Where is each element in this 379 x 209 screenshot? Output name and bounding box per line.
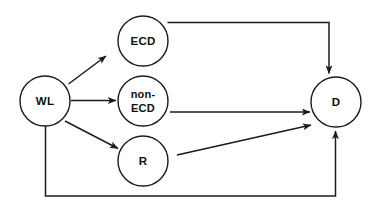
edge-wl-to-ecd xyxy=(69,56,107,84)
diagram-canvas: WL ECD non- ECD R D xyxy=(0,0,379,209)
edge-r-to-d xyxy=(177,125,311,155)
edge-wl-to-d-feedback xyxy=(46,126,336,196)
node-wl-label: WL xyxy=(36,95,54,107)
edge-wl-to-r xyxy=(65,121,118,149)
edge-group xyxy=(46,23,336,197)
node-ecd-label: ECD xyxy=(131,35,156,47)
node-d[interactable]: D xyxy=(311,77,361,127)
node-wl[interactable]: WL xyxy=(20,76,70,126)
node-r[interactable]: R xyxy=(118,136,168,186)
node-non-ecd-label-line2: ECD xyxy=(131,102,155,114)
edge-ecd-to-d xyxy=(168,23,330,74)
node-d-label: D xyxy=(332,96,341,108)
node-r-label: R xyxy=(139,155,148,167)
node-non-ecd[interactable]: non- ECD xyxy=(118,76,168,126)
node-ecd[interactable]: ECD xyxy=(118,16,168,66)
node-non-ecd-label-line1: non- xyxy=(131,88,156,100)
diagram-svg: WL ECD non- ECD R D xyxy=(0,0,379,209)
